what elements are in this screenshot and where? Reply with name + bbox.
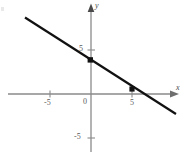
y-axis — [88, 4, 95, 153]
cartesian-plot — [0, 0, 187, 158]
y-axis-arrowhead — [88, 4, 95, 13]
graph-figure: -5 5 0 5 -5 x y — [0, 0, 187, 158]
origin-label: 0 — [83, 98, 87, 106]
x-tick-label-neg5: -5 — [44, 99, 51, 107]
y-tick-label-neg5: -5 — [74, 133, 81, 141]
data-point-second — [129, 86, 134, 91]
x-axis-label: x — [176, 84, 180, 92]
data-point-y-intercept — [88, 57, 93, 62]
x-tick-label-5: 5 — [130, 99, 134, 107]
y-axis-label: y — [95, 2, 99, 10]
corner-speck — [1, 7, 4, 11]
x-axis — [8, 91, 179, 98]
y-tick-label-5: 5 — [79, 45, 83, 53]
